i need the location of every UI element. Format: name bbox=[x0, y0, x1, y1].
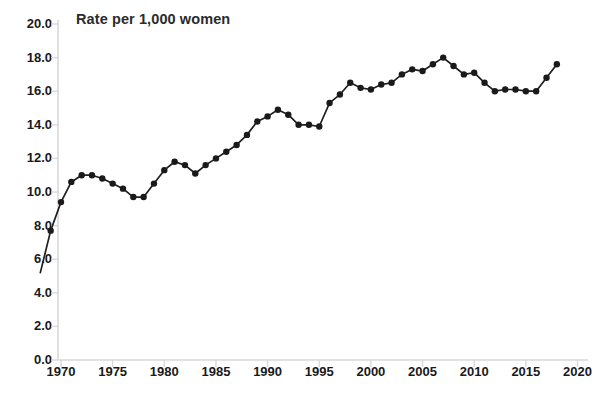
data-point-marker bbox=[171, 159, 177, 165]
data-point-marker bbox=[264, 113, 270, 119]
data-point-marker bbox=[306, 122, 312, 128]
data-point-marker bbox=[120, 185, 126, 191]
chart-plot-area bbox=[0, 0, 600, 400]
data-point-marker bbox=[543, 75, 549, 81]
data-point-marker bbox=[512, 86, 518, 92]
data-point-marker bbox=[388, 80, 394, 86]
data-point-marker bbox=[492, 88, 498, 94]
data-point-marker bbox=[533, 88, 539, 94]
data-point-marker bbox=[244, 132, 250, 138]
axis-lines bbox=[58, 20, 588, 360]
data-point-marker bbox=[326, 100, 332, 106]
data-point-marker bbox=[233, 142, 239, 148]
data-point-marker bbox=[213, 155, 219, 161]
data-point-marker bbox=[378, 81, 384, 87]
data-point-marker bbox=[78, 172, 84, 178]
data-point-marker bbox=[254, 118, 260, 124]
data-point-marker bbox=[58, 199, 64, 205]
data-point-marker bbox=[275, 106, 281, 112]
data-point-marker bbox=[316, 123, 322, 129]
data-point-marker bbox=[461, 71, 467, 77]
data-point-marker bbox=[99, 175, 105, 181]
data-point-marker bbox=[223, 148, 229, 154]
data-point-marker bbox=[440, 54, 446, 60]
data-point-marker bbox=[151, 180, 157, 186]
data-point-marker bbox=[192, 170, 198, 176]
data-point-marker bbox=[68, 179, 74, 185]
data-point-marker bbox=[502, 86, 508, 92]
data-point-marker bbox=[409, 66, 415, 72]
data-point-marker bbox=[450, 63, 456, 69]
data-point-marker bbox=[89, 172, 95, 178]
data-line-series bbox=[40, 58, 557, 273]
data-point-marker bbox=[109, 180, 115, 186]
footnote-text bbox=[398, 385, 598, 397]
data-point-marker bbox=[337, 91, 343, 97]
data-point-marker bbox=[130, 194, 136, 200]
y-axis-ticks bbox=[51, 24, 58, 360]
data-point-marker bbox=[523, 88, 529, 94]
data-point-marker bbox=[481, 80, 487, 86]
data-point-marker bbox=[357, 85, 363, 91]
data-point-marker bbox=[554, 61, 560, 67]
chart-figure: Rate per 1,000 women 0.02.04.06.08.010.0… bbox=[0, 0, 600, 400]
data-point-marker bbox=[182, 162, 188, 168]
data-point-marker bbox=[347, 80, 353, 86]
data-point-marker bbox=[140, 194, 146, 200]
data-point-marker bbox=[430, 61, 436, 67]
data-point-marker bbox=[295, 122, 301, 128]
data-point-marker bbox=[471, 70, 477, 76]
data-point-marker bbox=[399, 71, 405, 77]
data-point-markers bbox=[47, 54, 560, 233]
data-point-marker bbox=[285, 112, 291, 118]
data-point-marker bbox=[161, 167, 167, 173]
data-point-marker bbox=[47, 227, 53, 233]
x-axis-ticks bbox=[61, 360, 578, 367]
data-point-marker bbox=[368, 86, 374, 92]
data-point-marker bbox=[202, 162, 208, 168]
data-point-marker bbox=[419, 68, 425, 74]
